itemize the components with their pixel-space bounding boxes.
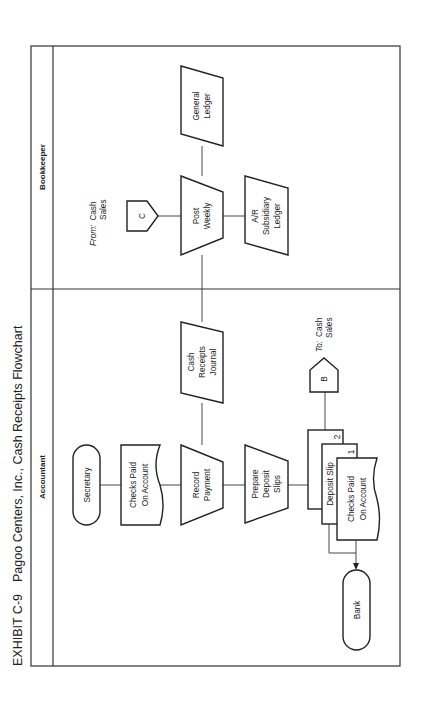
svg-text:Bookkeeper: Bookkeeper (38, 144, 47, 190)
svg-text:Sales: Sales (325, 318, 334, 338)
svg-text:Slips: Slips (273, 475, 282, 493)
connector-c-note: From:Cash Sales (89, 200, 108, 246)
svg-text:C: C (138, 213, 147, 219)
svg-text:On Account: On Account (359, 477, 368, 520)
node-prepare-deposit-slips[interactable]: Prepare Deposit Slips (245, 445, 288, 523)
node-bank[interactable]: Bank (343, 570, 370, 650)
node-record-payment[interactable]: Record Payment (181, 445, 223, 525)
svg-text:Deposit Slip: Deposit Slip (326, 462, 335, 506)
svg-text:Accountant: Accountant (38, 455, 47, 499)
exhibit-number: EXHIBIT C-9 (11, 594, 25, 666)
svg-text:To:Cash: To:Cash (315, 317, 324, 352)
svg-text:Cash: Cash (187, 352, 196, 372)
svg-text:Weekly: Weekly (203, 202, 212, 230)
exhibit-title: EXHIBIT C-9Pagoo Centers, Inc., Cash Rec… (11, 325, 25, 666)
svg-text:Bank: Bank (353, 600, 362, 620)
svg-text:1: 1 (347, 449, 356, 454)
svg-text:From:Cash: From:Cash (89, 201, 98, 246)
svg-text:Secretary: Secretary (83, 467, 92, 503)
node-cash-receipts-journal[interactable]: Cash Receipts Journal (181, 322, 223, 403)
svg-text:Checks Paid: Checks Paid (347, 476, 356, 522)
node-checks-paid-on-account-copy[interactable]: Checks Paid On Account (337, 458, 380, 540)
svg-text:On Account: On Account (141, 463, 150, 506)
svg-text:Record: Record (192, 471, 201, 498)
node-general-ledger[interactable]: General Ledger (181, 66, 223, 146)
lane-header-bookkeeper: Bookkeeper (38, 144, 47, 190)
svg-text:Ledger: Ledger (273, 203, 282, 229)
svg-text:Journal: Journal (209, 348, 218, 375)
svg-text:Subsidiary: Subsidiary (262, 196, 271, 235)
node-checks-paid-on-account[interactable]: Checks Paid On Account (121, 445, 163, 525)
node-post-weekly[interactable]: Post Weekly (181, 176, 223, 255)
svg-text:B: B (320, 376, 329, 382)
svg-text:A/R: A/R (251, 209, 260, 223)
exhibit-title-text: Pagoo Centers, Inc., Cash Receipts Flowc… (11, 325, 25, 582)
svg-text:Deposit: Deposit (262, 469, 271, 497)
lane-header-accountant: Accountant (38, 455, 47, 499)
svg-text:General: General (192, 91, 201, 120)
svg-text:Checks Paid: Checks Paid (129, 462, 138, 508)
node-ar-subsidiary-ledger[interactable]: A/R Subsidiary Ledger (245, 176, 288, 255)
svg-text:Receipts: Receipts (198, 346, 207, 378)
svg-text:2: 2 (333, 434, 342, 439)
connector-b-note: To:Cash Sales (315, 317, 334, 352)
svg-text:Ledger: Ledger (203, 93, 212, 119)
svg-text:Post: Post (192, 207, 201, 224)
svg-text:Payment: Payment (203, 468, 212, 501)
connector-c[interactable]: C (127, 201, 158, 231)
svg-text:EXHIBIT C-9Pagoo Centers, Inc.: EXHIBIT C-9Pagoo Centers, Inc., Cash Rec… (11, 325, 25, 666)
svg-text:Sales: Sales (99, 200, 108, 220)
arrowhead-icon (353, 563, 359, 570)
flowchart-canvas: EXHIBIT C-9Pagoo Centers, Inc., Cash Rec… (0, 0, 425, 707)
connector-b[interactable]: B (310, 358, 338, 392)
node-secretary[interactable]: Secretary (73, 445, 100, 525)
svg-text:Prepare: Prepare (251, 469, 260, 499)
